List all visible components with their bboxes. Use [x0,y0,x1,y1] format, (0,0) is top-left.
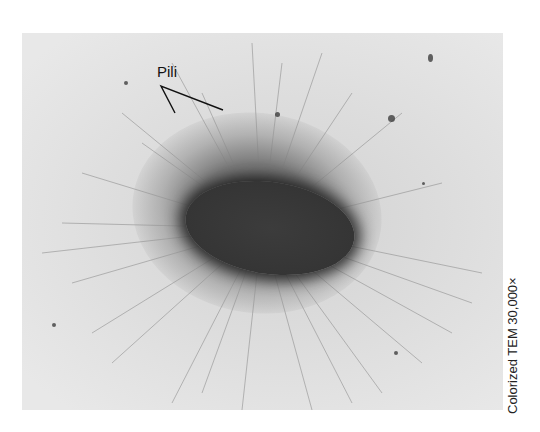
debris-particle [428,54,433,62]
debris-particle [388,115,395,122]
pili-label: Pili [157,63,177,80]
debris-particle [394,351,398,355]
debris-particle [52,323,56,327]
debris-particle [275,112,280,117]
debris-particle [124,81,128,85]
micrograph-image [22,33,503,410]
magnification-caption: Colorized TEM 30,000× [505,277,520,414]
debris-particle [422,182,425,185]
